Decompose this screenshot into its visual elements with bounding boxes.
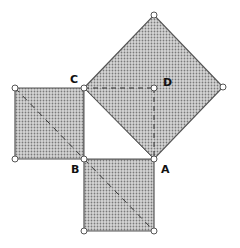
vertex-bottom-left — [81, 228, 87, 234]
label-c: C — [70, 73, 78, 86]
vertex-b — [81, 156, 87, 162]
vertex-left-bottom — [12, 156, 18, 162]
vertex-left-top — [12, 85, 18, 91]
vertex-bottom-right — [151, 228, 157, 234]
vertex-a — [151, 156, 157, 162]
label-b: B — [71, 163, 79, 176]
vertex-right — [220, 84, 226, 90]
vertex-top — [151, 12, 157, 18]
label-a: A — [161, 163, 170, 176]
vertex-d — [151, 85, 157, 91]
label-d: D — [163, 76, 172, 89]
vertex-c — [81, 85, 87, 91]
pythagoras-diagram: C D B A — [0, 0, 240, 248]
